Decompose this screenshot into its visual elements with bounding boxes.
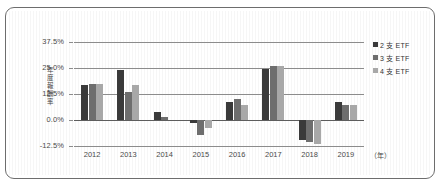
bar (125, 92, 132, 120)
x-tick-label: 2017 (255, 150, 291, 159)
bar (89, 84, 96, 120)
bar (226, 102, 233, 120)
bar (335, 102, 342, 120)
bar (190, 120, 197, 123)
chart-plot-area: 37.5%25.0%12.5%0.0%-12.5%201220132014201… (6, 8, 436, 180)
y-tick-label: 37.5% (6, 37, 64, 46)
legend-label-series-2: 3 支 ETF (380, 53, 409, 63)
y-tick-mark (69, 120, 73, 121)
bar (132, 85, 139, 120)
bar (81, 85, 88, 120)
x-tick-label: 2015 (183, 150, 219, 159)
x-tick-label: 2012 (74, 150, 110, 159)
y-tick-mark (69, 68, 73, 69)
legend-item: 2 支 ETF (373, 38, 431, 51)
x-axis-unit-label: （年） (370, 150, 391, 160)
legend-item: 4 支 ETF (373, 64, 431, 77)
bar (299, 120, 306, 140)
x-tick-label: 2016 (219, 150, 255, 159)
x-tick-label: 2019 (328, 150, 364, 159)
bar (350, 105, 357, 120)
bar (241, 105, 248, 120)
y-tick-mark (69, 94, 73, 95)
bar (234, 99, 241, 120)
legend-swatch-series-1 (373, 42, 378, 47)
legend-swatch-series-3 (373, 68, 378, 73)
bar (96, 84, 103, 120)
gridline (74, 68, 364, 69)
bar (314, 120, 321, 144)
legend-swatch-series-2 (373, 55, 378, 60)
x-tick-label: 2018 (292, 150, 328, 159)
y-tick-mark (69, 42, 73, 43)
x-tick-label: 2013 (110, 150, 146, 159)
legend-label-series-1: 2 支 ETF (380, 40, 409, 50)
x-tick-label: 2014 (147, 150, 183, 159)
legend-item: 3 支 ETF (373, 51, 431, 64)
bar (161, 117, 168, 120)
legend-label-series-3: 4 支 ETF (380, 66, 409, 76)
y-axis-title: 年度報酬率 (44, 66, 56, 106)
bar (205, 120, 212, 128)
y-tick-label: 0.0% (6, 115, 64, 124)
chart-legend: 2 支 ETF 3 支 ETF 4 支 ETF (373, 38, 431, 77)
bar (306, 120, 313, 142)
bar (270, 66, 277, 120)
bar (197, 120, 204, 135)
y-tick-mark (69, 146, 73, 147)
y-tick-label: -12.5% (6, 141, 64, 150)
bar (277, 66, 284, 120)
gridline (74, 146, 364, 147)
bar (117, 70, 124, 120)
bar (342, 105, 349, 120)
bar (262, 69, 269, 120)
chart-frame: 37.5%25.0%12.5%0.0%-12.5%201220132014201… (5, 7, 435, 179)
bar (154, 112, 161, 120)
gridline (74, 42, 364, 43)
